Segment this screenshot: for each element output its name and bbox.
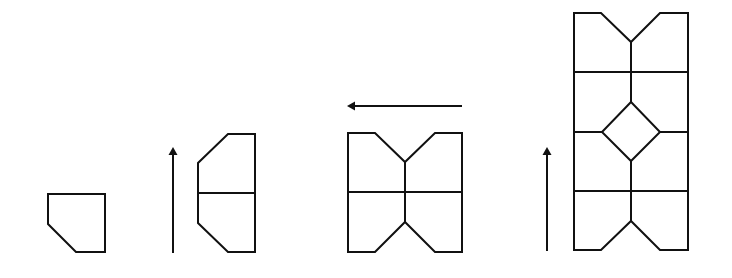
central-diamond (602, 102, 660, 161)
arrow-up-icon (169, 147, 178, 253)
transformation-diagram (0, 0, 732, 278)
pentagon-tile (48, 194, 105, 252)
arrow-left-icon (347, 102, 462, 111)
step-3-four-tiles (348, 133, 462, 252)
arrow-up-icon (543, 147, 552, 251)
step-4-eight-tiles (574, 13, 688, 250)
step-2-reflected-pair (198, 134, 255, 252)
step-1-single-tile (48, 194, 105, 252)
